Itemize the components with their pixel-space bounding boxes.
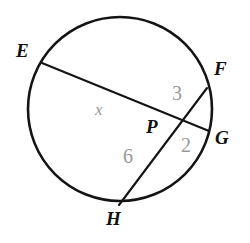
point-label-p: P <box>146 117 158 136</box>
point-label-h: H <box>106 209 121 228</box>
segment-measure-6: 6 <box>123 146 133 166</box>
segment-measure-x: x <box>95 101 103 118</box>
point-label-e: E <box>16 41 29 60</box>
geometry-canvas <box>0 0 250 243</box>
geometry-figure: E F G H P x 3 2 6 <box>0 0 250 243</box>
chord-eg-line <box>42 63 209 131</box>
circle-outline <box>28 17 212 201</box>
segment-measure-3: 3 <box>172 83 182 103</box>
segment-measure-2: 2 <box>181 135 191 155</box>
point-label-f: F <box>214 59 227 78</box>
point-label-g: G <box>215 128 229 147</box>
